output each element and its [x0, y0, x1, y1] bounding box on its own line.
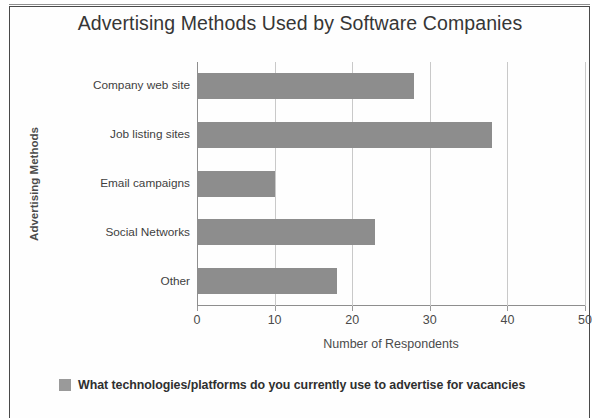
- bar[interactable]: [197, 73, 414, 99]
- legend-color-swatch-icon: [59, 379, 71, 391]
- y-tick-label: Social Networks: [10, 225, 190, 239]
- bar-row: [197, 257, 585, 306]
- y-tick-label: Email campaigns: [10, 176, 190, 190]
- y-tick-label: Job listing sites: [10, 127, 190, 141]
- x-tick-label: 20: [332, 313, 372, 327]
- y-axis-tick-labels: Company web siteJob listing sitesEmail c…: [6, 62, 190, 306]
- x-tick-mark-40: [507, 306, 508, 311]
- bar[interactable]: [197, 122, 492, 148]
- bar[interactable]: [197, 268, 337, 294]
- bar[interactable]: [197, 219, 375, 245]
- x-tick-mark-10: [275, 306, 276, 311]
- legend-series-label: What technologies/platforms do you curre…: [78, 378, 525, 392]
- x-tick-label: 30: [410, 313, 450, 327]
- bar[interactable]: [197, 171, 275, 197]
- x-tick-label: 50: [565, 313, 600, 327]
- x-tick-label: 10: [255, 313, 295, 327]
- x-tick-label: 0: [177, 313, 217, 327]
- chart-title: Advertising Methods Used by Software Com…: [40, 12, 560, 35]
- x-tick-mark-50: [585, 306, 586, 311]
- x-tick-mark-20: [352, 306, 353, 311]
- x-axis-title: Number of Respondents: [197, 337, 585, 351]
- bar-row: [197, 62, 585, 111]
- x-tick-mark-30: [430, 306, 431, 311]
- bar-row: [197, 111, 585, 160]
- chart-legend: What technologies/platforms do you curre…: [59, 378, 525, 392]
- bar-row: [197, 208, 585, 257]
- y-tick-label: Other: [10, 274, 190, 288]
- x-tick-label: 40: [487, 313, 527, 327]
- gridline-x-50: [585, 62, 586, 306]
- y-tick-label: Company web site: [10, 78, 190, 92]
- x-tick-mark-0: [197, 306, 198, 311]
- plot-area: [197, 62, 585, 306]
- bar-row: [197, 160, 585, 209]
